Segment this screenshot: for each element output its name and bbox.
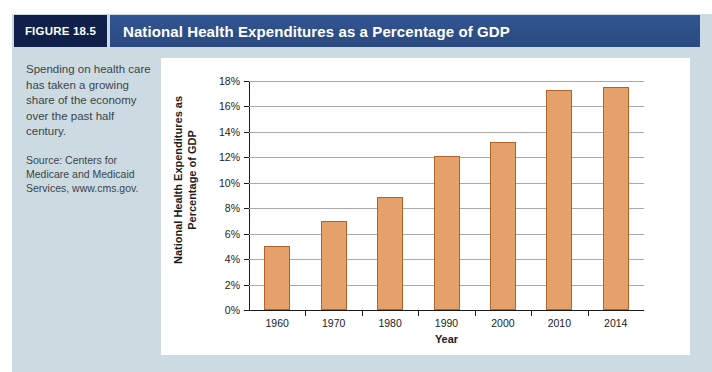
y-axis-title-line-2: Percentage of GDP <box>185 60 199 300</box>
figure-page: FIGURE 18.5 National Health Expenditures… <box>0 0 712 372</box>
y-axis-tick-label: 14% <box>219 126 240 138</box>
y-axis-tick-mark <box>244 208 249 209</box>
x-axis-line <box>249 310 644 311</box>
gridline <box>249 106 644 107</box>
caption-source-text: Source: Centers for Medicare and Medicai… <box>26 153 154 195</box>
bar-2010 <box>546 90 572 310</box>
y-axis-tick-label: 2% <box>225 279 240 291</box>
figure-title-bar: National Health Expenditures as a Percen… <box>110 15 700 47</box>
gridline <box>249 132 644 133</box>
y-axis-tick-label: 0% <box>225 304 240 316</box>
bar-1970 <box>321 221 347 310</box>
y-axis-tick-label: 6% <box>225 228 240 240</box>
bar-1980 <box>377 197 403 310</box>
y-axis-tick-label: 8% <box>225 202 240 214</box>
y-axis-line <box>249 81 250 310</box>
chart-panel: National Health Expenditures as Percenta… <box>161 58 690 355</box>
caption-column: Spending on health care has taken a grow… <box>26 62 154 195</box>
x-axis-tick-label: 2010 <box>531 317 587 329</box>
bar-1960 <box>264 246 290 310</box>
y-axis-tick-mark <box>244 234 249 235</box>
x-axis-title: Year <box>249 333 644 345</box>
x-axis-tick-label: 1980 <box>362 317 418 329</box>
page-top-margin <box>0 0 712 14</box>
plot-area: 0%2%4%6%8%10%12%14%16%18%196019701980199… <box>249 81 644 310</box>
x-axis-tick-mark <box>362 310 363 316</box>
x-axis-tick-label: 1960 <box>249 317 305 329</box>
x-axis-tick-label: 1970 <box>306 317 362 329</box>
x-axis-tick-mark <box>531 310 532 316</box>
x-axis-tick-mark <box>305 310 306 316</box>
caption-lead-text: Spending on health care has taken a grow… <box>26 62 154 140</box>
figure-header: FIGURE 18.5 National Health Expenditures… <box>14 15 700 47</box>
bar-2000 <box>490 142 516 310</box>
y-axis-tick-mark <box>244 157 249 158</box>
y-axis-tick-mark <box>244 259 249 260</box>
y-axis-tick-label: 12% <box>219 151 240 163</box>
figure-number-badge: FIGURE 18.5 <box>14 15 107 47</box>
y-axis-title: National Health Expenditures as Percenta… <box>171 60 199 300</box>
gridline <box>249 81 644 82</box>
y-axis-tick-label: 16% <box>219 100 240 112</box>
x-axis-tick-mark <box>418 310 419 316</box>
y-axis-tick-mark <box>244 106 249 107</box>
x-axis-tick-mark <box>588 310 589 316</box>
y-axis-tick-label: 18% <box>219 75 240 87</box>
y-axis-tick-label: 4% <box>225 253 240 265</box>
y-axis-title-line-1: National Health Expenditures as <box>171 60 185 300</box>
bar-2014 <box>603 87 629 310</box>
x-axis-tick-label: 2014 <box>588 317 644 329</box>
y-axis-tick-mark <box>244 285 249 286</box>
page-title: National Health Expenditures as a Percen… <box>123 23 510 40</box>
y-axis-tick-mark <box>244 183 249 184</box>
chart-area: National Health Expenditures as Percenta… <box>161 58 690 355</box>
x-axis-tick-label: 1990 <box>419 317 475 329</box>
y-axis-tick-mark <box>244 132 249 133</box>
y-axis-tick-label: 10% <box>219 177 240 189</box>
x-axis-tick-label: 2000 <box>475 317 531 329</box>
bar-1990 <box>434 156 460 310</box>
y-axis-tick-mark <box>244 81 249 82</box>
y-axis-tick-mark <box>244 310 249 311</box>
x-axis-tick-mark <box>475 310 476 316</box>
